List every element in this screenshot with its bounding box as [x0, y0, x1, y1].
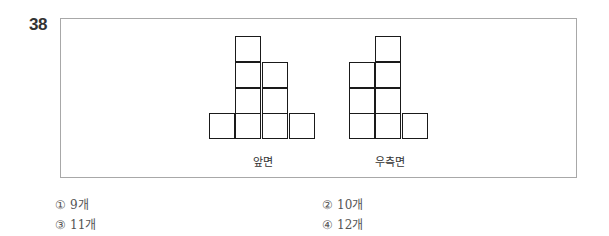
- front-view-cell: [235, 113, 261, 139]
- front-view-cell: [262, 88, 288, 114]
- choice-4-text: 12개: [337, 218, 363, 232]
- choice-3-mark: ③: [55, 218, 66, 232]
- right-view-label: 우측면: [360, 153, 420, 169]
- right-view-cell: [402, 113, 428, 139]
- choice-4-mark: ④: [322, 218, 333, 232]
- choice-2-mark: ②: [322, 198, 333, 212]
- right-view-cell: [375, 36, 401, 62]
- right-view-cell: [349, 113, 375, 139]
- front-view-cell: [209, 113, 235, 139]
- choice-1-mark: ①: [55, 198, 66, 212]
- front-view-cell: [262, 62, 288, 88]
- choice-3[interactable]: ③11개: [55, 215, 96, 232]
- question-number: 38: [29, 15, 47, 35]
- front-view-cell: [235, 62, 261, 88]
- right-view-cell: [375, 62, 401, 88]
- front-view-cell: [235, 88, 261, 114]
- front-view-cell: [235, 36, 261, 62]
- right-view-cell: [375, 113, 401, 139]
- right-view-cell: [349, 88, 375, 114]
- choice-4[interactable]: ④12개: [322, 215, 363, 232]
- right-view-cell: [375, 88, 401, 114]
- front-view-cell: [262, 113, 288, 139]
- choice-3-text: 11개: [70, 218, 96, 232]
- figure-box: [60, 18, 577, 178]
- front-view-label: 앞면: [233, 153, 293, 169]
- right-view-cell: [349, 62, 375, 88]
- choice-1-text: 9개: [70, 198, 89, 212]
- choice-2-text: 10개: [337, 198, 363, 212]
- choice-2[interactable]: ②10개: [322, 195, 363, 212]
- front-view-cell: [289, 113, 315, 139]
- choice-1[interactable]: ①9개: [55, 195, 89, 212]
